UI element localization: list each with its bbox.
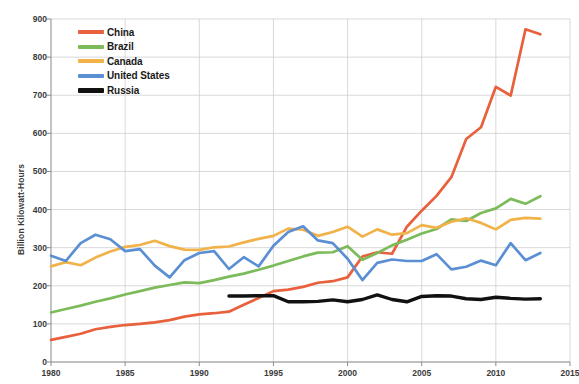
- series-line-united-states: [51, 226, 540, 280]
- y-tick-label: 400: [7, 205, 47, 215]
- legend-item: Russia: [78, 84, 170, 96]
- y-tick-label: 700: [7, 90, 47, 100]
- legend-item-label: China: [107, 27, 134, 38]
- y-tick-label: 900: [7, 14, 47, 24]
- x-tick-label: 1980: [42, 368, 61, 378]
- x-tick-label: 1985: [116, 368, 135, 378]
- chart-legend: ChinaBrazilCanadaUnited StatesRussia: [78, 26, 170, 96]
- legend-item-label: Russia: [107, 85, 139, 96]
- x-tick-label: 1995: [264, 368, 283, 378]
- legend-item: Canada: [78, 55, 170, 67]
- legend-item-label: Canada: [107, 56, 143, 67]
- legend-item-label: United States: [107, 70, 170, 81]
- y-axis-tick-labels: 0100200300400500600700800900: [0, 0, 47, 384]
- y-tick-label: 500: [7, 166, 47, 176]
- series-line-brazil: [51, 196, 540, 312]
- y-tick-label: 600: [7, 128, 47, 138]
- x-tick-label: 2000: [338, 368, 357, 378]
- x-tick-label: 1990: [190, 368, 209, 378]
- legend-color-swatch: [78, 30, 104, 34]
- y-tick-label: 800: [7, 52, 47, 62]
- y-tick-label: 0: [7, 357, 47, 367]
- legend-item-label: Brazil: [107, 41, 134, 52]
- legend-color-swatch: [78, 74, 104, 78]
- series-line-russia: [229, 295, 540, 302]
- legend-color-swatch: [78, 45, 104, 49]
- legend-item: China: [78, 26, 170, 38]
- y-tick-label: 300: [7, 243, 47, 253]
- legend-item: Brazil: [78, 41, 170, 53]
- x-tick-label: 2010: [486, 368, 505, 378]
- legend-color-swatch: [78, 88, 104, 93]
- legend-color-swatch: [78, 59, 104, 63]
- legend-item: United States: [78, 70, 170, 82]
- x-tick-label: 2015: [561, 368, 579, 378]
- x-tick-label: 2005: [412, 368, 431, 378]
- y-tick-label: 200: [7, 281, 47, 291]
- y-tick-label: 100: [7, 319, 47, 329]
